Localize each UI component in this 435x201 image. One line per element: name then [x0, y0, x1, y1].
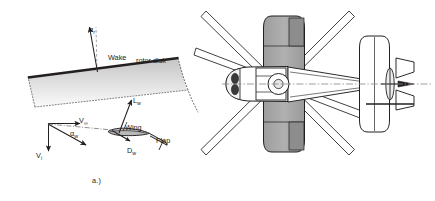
label-wake: Wake [108, 54, 126, 61]
cockpit-window-left [231, 73, 238, 83]
wake-region [28, 58, 187, 107]
panel-a-svg [0, 0, 218, 201]
label-drag-wing: Dw [127, 147, 136, 157]
label-wing: Wing [125, 124, 142, 131]
label-v-induced: Vi [36, 152, 42, 162]
wing-aileron-bottom [289, 122, 304, 150]
horizontal-stabilizer [396, 58, 414, 78]
wing-aileron-top [289, 18, 304, 46]
panel-b-svg [218, 0, 435, 201]
cockpit-window-right [231, 84, 238, 94]
horizontal-stabilizer-lower [396, 90, 414, 110]
panel-b-helicopter-top-view: b.) [218, 0, 435, 201]
label-lift-wing: Lw [133, 97, 141, 107]
label-alpha-rotor: αr [89, 26, 95, 36]
panel-a-rotor-wake-diagram: αr Wake rotor disk V∞ αw Vi Lw Wing Dw F… [0, 0, 218, 201]
label-rotor-disk: rotor disk [136, 57, 166, 64]
label-v-infinity: V∞ [79, 117, 88, 127]
caption-panel-a: a.) [92, 176, 101, 185]
label-flap: Flap [156, 137, 170, 144]
figure-container: αr Wake rotor disk V∞ αw Vi Lw Wing Dw F… [0, 0, 435, 201]
label-alpha-wing: αw [70, 130, 78, 140]
tail-boom [288, 67, 368, 102]
